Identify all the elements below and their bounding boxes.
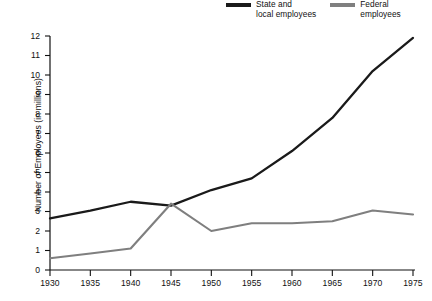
x-tick-label: 1970	[353, 279, 393, 288]
y-tick-label: 9	[22, 90, 40, 99]
y-tick-label: 0	[22, 266, 40, 275]
y-tick-label: 10	[22, 71, 40, 80]
y-tick-label: 2	[22, 227, 40, 236]
legend-label-state-local: State and local employees	[256, 0, 316, 19]
line-swatch-state-local-icon	[226, 3, 251, 7]
y-tick-label: 5	[22, 168, 40, 177]
y-tick-label: 7	[22, 129, 40, 138]
legend-entry-state-local: State and local employees	[226, 0, 316, 19]
legend-label-federal: Federal employees	[360, 0, 401, 19]
line-swatch-federal-icon	[330, 3, 355, 7]
axes-layer	[45, 36, 415, 276]
y-tick-label: 1	[22, 246, 40, 255]
y-tick-label: 3	[22, 207, 40, 216]
y-tick-label: 12	[22, 32, 40, 41]
x-tick-label: 1930	[30, 279, 70, 288]
x-tick-label: 1940	[111, 279, 151, 288]
employment-line-chart: State and local employees Federal employ…	[0, 0, 432, 301]
series-layer	[50, 38, 413, 258]
legend-entry-federal: Federal employees	[330, 0, 401, 19]
y-tick-label: 4	[22, 188, 40, 197]
x-tick-label: 1950	[191, 279, 231, 288]
x-tick-label: 1955	[232, 279, 272, 288]
series-line-state-local	[50, 38, 413, 218]
y-tick-label: 11	[22, 51, 40, 60]
chart-legend: State and local employees Federal employ…	[226, 0, 432, 26]
y-tick-label: 6	[22, 149, 40, 158]
x-tick-label: 1975	[393, 279, 432, 288]
x-tick-label: 1945	[151, 279, 191, 288]
series-line-federal	[50, 204, 413, 259]
plot-area	[0, 0, 432, 301]
x-tick-label: 1965	[312, 279, 352, 288]
x-tick-label: 1960	[272, 279, 312, 288]
x-tick-label: 1935	[70, 279, 110, 288]
y-tick-label: 8	[22, 110, 40, 119]
